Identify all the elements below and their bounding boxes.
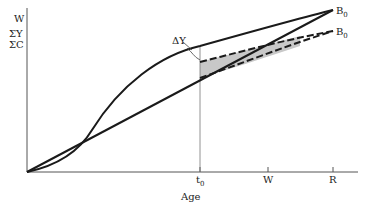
b0-top-label: B0 [336,5,348,19]
delta-y-label: ΔY [172,35,186,46]
b0-bottom-label: B0 [336,26,348,40]
x-axis-title: Age [180,191,201,202]
y-label-sum-c: ΣC [9,39,24,50]
y-label-w: W [14,13,25,24]
dashed-lower-curve [200,31,333,78]
x-tick-label-t0: t0 [196,174,205,188]
delta-y-marker [187,48,200,60]
x-tick-label-w: W [263,174,274,185]
y-label-sum-y: ΣY [9,28,23,39]
x-tick-label-r: R [329,174,337,185]
life-cycle-diagram: W ΣY ΣC ΔY B0 B0 t0 W R Age [0,0,368,206]
